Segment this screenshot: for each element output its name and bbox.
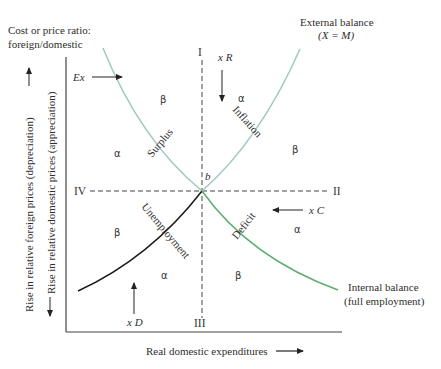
intersection-label-b: b [205,170,211,182]
zone-label-II: II [333,185,341,197]
region-mark-alpha: α [294,224,301,235]
region-mark-beta: β [160,94,166,105]
y-label-inner: Rise in relative domestic prices (apprec… [45,91,58,294]
y-axis-title-line2: foreign/domestic [8,38,83,50]
surplus-label: Surplus [144,126,175,159]
external-balance-label-line2: (X = M) [318,29,354,42]
xr-arrow-label: x R [217,51,233,63]
y-axis-title-line1: Cost or price ratio: [8,24,91,36]
unemployment-label: Unemployment [139,201,192,261]
zone-label-I: I [198,46,202,58]
zone-label-IV: IV [74,185,87,197]
internal-external-balance-diagram: Cost or price ratio: foreign/domestic Ri… [0,0,441,369]
y-label-outer: Rise in relative foreign prices (depreci… [23,117,36,312]
internal-balance-label-line1: Internal balance [348,281,419,293]
region-mark-alpha: α [161,270,168,281]
xd-arrow-label: x D [126,316,143,328]
external-balance-curve-left [103,48,202,191]
x-axis-label: Real domestic expenditures [146,345,268,357]
y-label-inner-group: Rise in relative domestic prices (apprec… [45,91,58,316]
xc-arrow-label: x C [308,204,325,216]
region-mark-beta: β [114,227,120,238]
region-mark-alpha: α [114,148,121,159]
region-mark-beta: β [235,270,241,281]
internal-balance-label-line2: (full employment) [344,295,425,308]
ex-arrow-label: Ex [72,71,85,83]
y-label-outer-group: Rise in relative foreign prices (depreci… [23,68,36,312]
inflation-label: Inflation [231,103,266,140]
region-mark-alpha: α [238,93,245,104]
region-mark-beta: β [292,144,298,155]
external-balance-label-line1: External balance [300,16,374,28]
zone-label-III: III [194,317,206,329]
